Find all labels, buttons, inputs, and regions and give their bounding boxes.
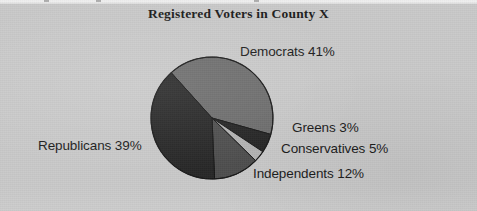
pie-slice-group	[151, 57, 273, 179]
pie-label-democrats: Democrats 41%	[240, 44, 335, 59]
chart-title: Registered Voters in County X	[0, 6, 477, 22]
pie-chart	[0, 0, 477, 211]
figure-canvas: Registered Voters in County X Democrats …	[0, 0, 477, 211]
pie-label-conservatives: Conservatives 5%	[281, 141, 388, 156]
pie-label-republicans: Republicans 39%	[38, 138, 142, 153]
pie-label-greens: Greens 3%	[292, 120, 359, 135]
pie-chart-svg	[0, 0, 477, 211]
pie-label-independents: Independents 12%	[253, 166, 364, 181]
